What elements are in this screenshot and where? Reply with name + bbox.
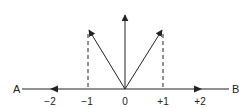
diagram-canvas [0, 0, 249, 108]
tick-label-minus-1: −1 [81, 97, 92, 107]
tick-label-minus-2: −2 [44, 97, 55, 107]
axis-end-label: B [232, 84, 239, 95]
tick-label-plus-1: +1 [157, 97, 168, 107]
axis-start-label: A [13, 84, 20, 95]
tick-label-plus-2: +2 [194, 97, 205, 107]
vector-right-diagonal [125, 30, 162, 89]
tick-label-zero: 0 [122, 97, 128, 107]
axis-right-arrowhead-icon [194, 86, 202, 93]
vector-diagram: A B −2 −1 0 +1 +2 [0, 0, 249, 108]
vector-left-diagonal [89, 30, 125, 89]
axis-left-arrowhead-icon [50, 86, 58, 93]
